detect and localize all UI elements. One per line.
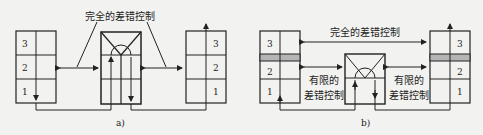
b-right-layer-3: 3 bbox=[457, 39, 463, 49]
b-right-layer-1: 1 bbox=[457, 87, 463, 97]
diagram-a bbox=[16, 22, 226, 110]
a-left-layer-3: 3 bbox=[22, 39, 28, 49]
a-right-layer-3: 3 bbox=[213, 39, 219, 49]
error-control-diagram: 完全的差错控制 3 2 1 3 2 1 a) bbox=[0, 0, 483, 135]
b-left-label-1: 有限的 bbox=[309, 74, 339, 86]
a-left-layer-1: 1 bbox=[22, 87, 28, 97]
b-left-layer-1: 1 bbox=[267, 87, 273, 97]
b-left-stack bbox=[260, 31, 300, 103]
b-left-layer-2: 2 bbox=[267, 67, 273, 77]
a-right-stack bbox=[186, 24, 226, 103]
b-relay-node bbox=[345, 54, 385, 104]
b-right-stack bbox=[430, 24, 470, 103]
b-left-label-2: 差错控制 bbox=[304, 89, 344, 101]
a-right-layer-1: 1 bbox=[213, 87, 219, 97]
b-left-layer-3: 3 bbox=[267, 39, 273, 49]
b-top-label: 完全的差错控制 bbox=[330, 26, 400, 38]
a-left-layer-2: 2 bbox=[22, 63, 28, 73]
b-right-layer-2: 2 bbox=[457, 67, 463, 77]
a-title-label: 完全的差错控制 bbox=[85, 10, 155, 22]
b-right-label-2: 差错控制 bbox=[389, 89, 429, 101]
b-right-label-1: 有限的 bbox=[394, 74, 424, 86]
a-caption: a) bbox=[116, 118, 125, 128]
a-right-layer-2: 2 bbox=[213, 63, 219, 73]
a-relay-node bbox=[101, 32, 141, 104]
b-caption: b) bbox=[361, 118, 370, 128]
